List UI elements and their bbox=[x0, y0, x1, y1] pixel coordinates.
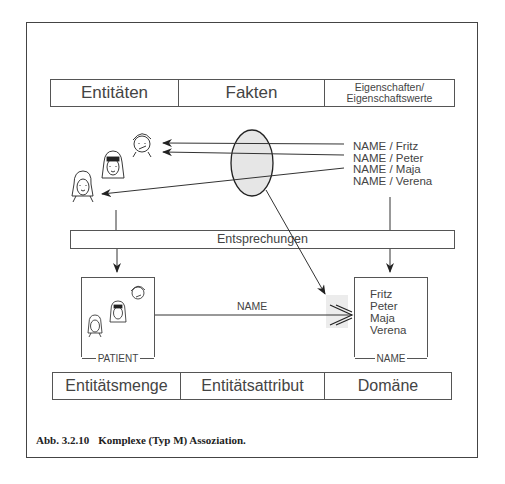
face-small-3-icon bbox=[88, 315, 102, 337]
bottom-category-table: Entitätsmenge Entitätsattribut Domäne bbox=[52, 372, 452, 400]
diagram-graphics bbox=[0, 0, 505, 484]
face-peter-icon bbox=[102, 151, 124, 178]
fact-arrow-maja bbox=[102, 168, 344, 194]
face-maja-icon bbox=[72, 171, 93, 202]
footer-entity-attribute: Entitätsattribut bbox=[181, 373, 325, 399]
footer-domain: Domäne bbox=[325, 373, 451, 399]
caption-number: Abb. 3.2.10 bbox=[36, 434, 89, 446]
caption-text: Komplexe (Typ M) Assoziation. bbox=[98, 434, 246, 446]
figure-caption: Abb. 3.2.10Komplexe (Typ M) Assoziation. bbox=[36, 434, 246, 446]
fact-arrow-fritz bbox=[163, 143, 344, 144]
footer-entity-set: Entitätsmenge bbox=[53, 373, 181, 399]
face-small-2-icon bbox=[110, 301, 126, 322]
ellipse-to-association-arrow bbox=[266, 190, 325, 294]
face-small-1-icon bbox=[131, 286, 145, 299]
face-fritz-icon bbox=[133, 134, 151, 157]
fact-ellipse bbox=[231, 130, 273, 196]
